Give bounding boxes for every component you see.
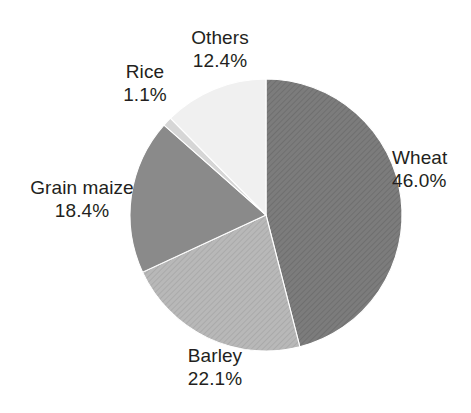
pie-label-grain-maize-value: 18.4% [14,199,150,222]
pie-label-rice-value: 1.1% [93,83,197,106]
pie-label-grain-maize-name: Grain maize [14,176,150,199]
pie-label-grain-maize: Grain maize 18.4% [14,176,150,222]
pie-label-wheat-value: 46.0% [392,169,471,192]
pie-label-wheat-name: Wheat [392,146,471,169]
pie-label-rice: Rice 1.1% [93,60,197,106]
pie-label-others-name: Others [159,26,281,49]
pie-label-rice-name: Rice [93,60,197,83]
pie-label-barley-name: Barley [155,344,275,367]
pie-label-barley: Barley 22.1% [155,344,275,390]
pie-label-barley-value: 22.1% [155,367,275,390]
pie-label-wheat: Wheat 46.0% [392,146,471,192]
pie-chart-figure: Others 12.4% Rice 1.1% Grain maize 18.4%… [0,0,471,413]
